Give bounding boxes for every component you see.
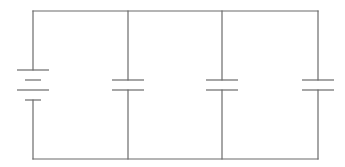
wires [33, 11, 318, 159]
capacitor-1-symbol [112, 80, 144, 90]
capacitor-2-symbol [206, 80, 238, 90]
battery-symbol [17, 70, 49, 100]
capacitor-3-symbol [302, 80, 334, 90]
circuit-diagram [0, 0, 345, 167]
